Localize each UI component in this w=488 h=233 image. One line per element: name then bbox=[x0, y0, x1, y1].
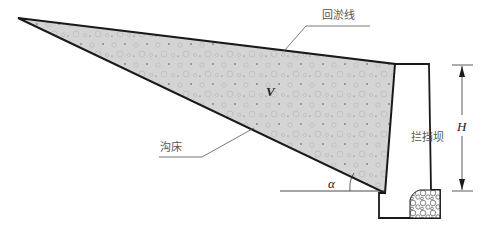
siltation-line-label: 回淤线 bbox=[322, 8, 355, 22]
siltation-line-leader bbox=[284, 26, 370, 51]
sediment-deposit bbox=[18, 18, 395, 193]
angle-alpha-label: α bbox=[328, 176, 336, 191]
gully-bed-label: 沟床 bbox=[160, 140, 182, 154]
check-dam-diagram: α V 回淤线 沟床 拦挡坝 H bbox=[0, 0, 488, 233]
arrow-down-icon bbox=[459, 179, 465, 190]
volume-label: V bbox=[266, 84, 276, 99]
arrow-up-icon bbox=[459, 66, 465, 77]
check-dam-label: 拦挡坝 bbox=[411, 130, 444, 144]
rubble-foundation bbox=[410, 190, 440, 218]
height-label: H bbox=[456, 119, 467, 134]
